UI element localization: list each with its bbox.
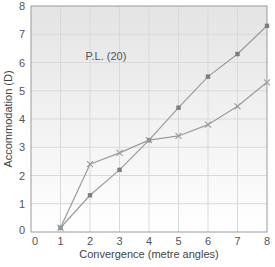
y-axis-label: Accommodation (D) [2,70,14,167]
x-tick-label: 4 [146,235,152,247]
y-tick-label: 2 [19,170,25,182]
y-tick-label: 0 [19,224,25,236]
x-axis-label: Convergence (metre angles) [79,248,218,260]
chart: 012345678 012345678 P.L. (20) Convergenc… [0,0,275,267]
square-marker [117,168,121,172]
x-tick-label: 6 [205,235,211,247]
x-tick-label: 5 [175,235,181,247]
y-tick-labels: 012345678 [19,0,25,236]
x-tick-label: 2 [87,235,93,247]
x-tick-labels: 012345678 [32,235,270,247]
square-marker [88,193,92,197]
y-tick-label: 3 [19,141,25,153]
y-tick-label: 6 [19,57,25,69]
y-tick-label: 5 [19,85,25,97]
square-marker [206,74,210,78]
y-tick-label: 7 [19,28,25,40]
x-tick-label: 0 [32,235,38,247]
x-tick-label: 8 [264,235,270,247]
square-marker [176,106,180,110]
y-tick-label: 8 [19,0,25,12]
x-tick-label: 3 [116,235,122,247]
x-tick-label: 7 [234,235,240,247]
square-marker [265,24,269,28]
square-marker [235,52,239,56]
y-tick-label: 4 [19,113,25,125]
x-tick-label: 1 [57,235,63,247]
pl-annotation: P.L. (20) [86,50,127,62]
y-tick-label: 1 [19,198,25,210]
